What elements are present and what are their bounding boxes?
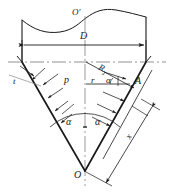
label-point-a: A (135, 76, 141, 86)
label-apex-bottom: O (74, 170, 81, 180)
label-angle-left: α (66, 117, 71, 127)
label-apex-top: O' (72, 8, 80, 17)
diagram-canvas (0, 0, 174, 196)
engineering-diagram: O' D R2 r t p A α α α x O (0, 0, 174, 196)
label-angle-right: α (95, 117, 100, 127)
label-radius-inner: r (91, 76, 95, 85)
label-diameter: D (80, 31, 87, 41)
label-thickness: t (13, 77, 16, 86)
slant-dimension (86, 99, 160, 186)
label-pressure: p (64, 75, 69, 85)
diameter-dimension (22, 40, 146, 62)
label-angle-small: α (106, 76, 111, 85)
